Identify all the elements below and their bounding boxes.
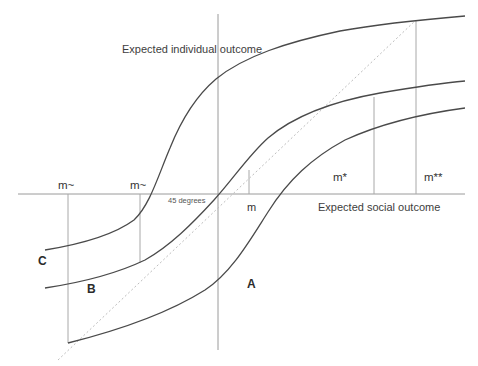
forty-five-degree-label: 45 degrees: [168, 197, 206, 205]
tick-label-m-star: m*: [333, 172, 347, 184]
curve-B-path: [45, 81, 465, 288]
curve-label-A: A: [247, 278, 256, 290]
tick-label-m-equilibrium: m: [247, 202, 256, 213]
curve-A-path: [68, 108, 465, 343]
curve-label-B: B: [87, 283, 96, 295]
y-axis-label: Expected individual outcome: [122, 44, 262, 55]
forty-five-degree-line: [58, 20, 416, 360]
tick-label-m-tilde-left: m~: [58, 180, 74, 192]
curve-label-C: C: [38, 255, 47, 267]
x-axis-label: Expected social outcome: [318, 202, 440, 213]
tick-label-m-tilde-mid: m~: [130, 180, 146, 192]
tick-label-m-double-star: m**: [424, 172, 443, 184]
diagram-canvas: Expected individual outcome Expected soc…: [0, 0, 478, 366]
